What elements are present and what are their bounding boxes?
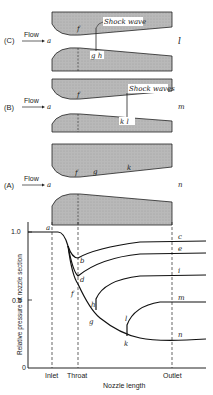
case-label: (C) <box>4 36 15 45</box>
nozzle-bottom-wall <box>52 194 172 225</box>
nozzle-bottom-wall <box>52 48 172 71</box>
svg-text:m: m <box>178 294 185 302</box>
svg-text:g: g <box>89 318 94 326</box>
y-tick-label: 0 <box>22 364 26 371</box>
svg-text:b: b <box>80 257 85 265</box>
svg-text:d: d <box>80 276 85 284</box>
svg-text:a: a <box>47 37 51 45</box>
nozzle-diagram: Shock wave g h f (C) Flow a l Shock wave… <box>0 0 213 395</box>
pressure-chart: 1.0 0.5 0 Relative pressure at nozzle se… <box>11 222 206 390</box>
svg-text:f: f <box>70 290 75 298</box>
curve-a-d-e <box>68 246 206 276</box>
nozzle-case-a: f g k (A) Flow a n <box>4 144 183 225</box>
svg-text:i: i <box>178 267 180 275</box>
nozzle-top-wall <box>52 144 172 177</box>
curve-supersonic <box>68 246 206 340</box>
y-tick-label: 1.0 <box>11 228 21 235</box>
svg-text:l: l <box>125 315 127 323</box>
outlet-point-label: l <box>178 36 181 46</box>
svg-text:g: g <box>93 168 98 176</box>
outlet-point-label: m <box>178 103 185 111</box>
nozzle-case-c: Shock wave g h f (C) Flow a l <box>4 12 181 71</box>
shock-waves-label: Shock waves <box>129 85 175 93</box>
svg-text:k: k <box>127 164 131 172</box>
shock-points-label: k l <box>120 118 129 126</box>
outlet-point-label: n <box>178 181 183 189</box>
svg-text:a: a <box>47 181 51 189</box>
flow-label: Flow <box>24 175 40 182</box>
shock-wave-label: Shock wave <box>104 18 146 26</box>
x-marker-label: Throat <box>67 372 87 379</box>
case-label: (B) <box>4 103 15 112</box>
x-axis-title: Nozzle length <box>103 382 146 390</box>
shock-points-label: g h <box>91 52 102 60</box>
svg-text:a: a <box>47 103 51 111</box>
svg-text:h: h <box>91 301 96 309</box>
curve-shock-kl-m <box>127 302 206 336</box>
x-marker-label: Outlet <box>163 372 182 379</box>
y-axis-title: Relative pressure at nozzle section <box>16 254 24 355</box>
flow-label: Flow <box>24 31 40 38</box>
nozzle-case-b: Shock waves k l f (B) Flow a m <box>4 79 185 132</box>
svg-text:n: n <box>178 331 183 339</box>
curve-shock-gh-i <box>96 275 206 310</box>
flow-label: Flow <box>24 97 40 104</box>
nozzle-bottom-wall <box>52 114 172 132</box>
svg-text:k: k <box>124 340 128 348</box>
svg-text:a: a <box>46 224 50 232</box>
x-marker-label: Inlet <box>45 372 58 379</box>
svg-text:e: e <box>178 245 182 253</box>
case-label: (A) <box>4 181 15 190</box>
svg-text:c: c <box>178 233 182 241</box>
